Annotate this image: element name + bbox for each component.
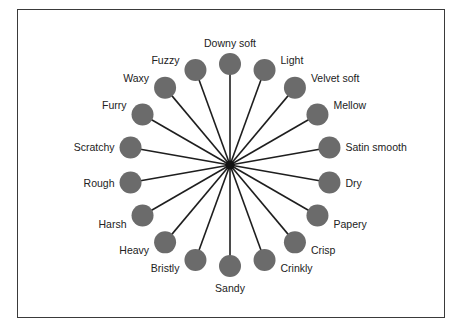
label-waxy: Waxy — [123, 72, 150, 84]
label-scratchy: Scratchy — [74, 141, 116, 153]
label-dry: Dry — [345, 177, 362, 189]
node-downy-soft — [219, 53, 241, 75]
spoke-crisp — [230, 165, 295, 242]
node-light — [254, 59, 276, 81]
spoke-fuzzy — [195, 70, 230, 165]
spoke-velvet-soft — [230, 88, 295, 165]
node-papery — [306, 205, 328, 227]
label-downy-soft: Downy soft — [204, 37, 256, 49]
node-satin-smooth — [318, 136, 340, 158]
node-waxy — [154, 77, 176, 99]
label-velvet-soft: Velvet soft — [311, 72, 360, 84]
node-velvet-soft — [284, 77, 306, 99]
node-crisp — [284, 231, 306, 253]
node-heavy — [154, 231, 176, 253]
spoke-waxy — [165, 88, 230, 165]
node-dry — [318, 172, 340, 194]
hub-center — [226, 161, 235, 170]
label-papery: Papery — [333, 218, 367, 230]
node-furry — [132, 104, 154, 126]
node-mellow — [306, 104, 328, 126]
node-harsh — [132, 205, 154, 227]
label-fuzzy: Fuzzy — [151, 54, 180, 66]
texture-wheel-diagram: Downy softLightVelvet softMellowSatin sm… — [0, 0, 456, 328]
node-fuzzy — [184, 59, 206, 81]
label-furry: Furry — [102, 99, 127, 111]
spoke-crinkly — [230, 165, 265, 260]
label-heavy: Heavy — [119, 244, 150, 256]
node-crinkly — [254, 249, 276, 271]
label-mellow: Mellow — [333, 99, 366, 111]
labels-group: Downy softLightVelvet softMellowSatin sm… — [74, 37, 407, 294]
node-bristly — [184, 249, 206, 271]
node-sandy — [219, 255, 241, 277]
label-rough: Rough — [84, 177, 115, 189]
label-bristly: Bristly — [151, 262, 180, 274]
spoke-light — [230, 70, 265, 165]
node-scratchy — [120, 136, 142, 158]
spoke-heavy — [165, 165, 230, 242]
label-sandy: Sandy — [215, 282, 246, 294]
label-harsh: Harsh — [99, 218, 127, 230]
label-light: Light — [281, 54, 304, 66]
spoke-bristly — [195, 165, 230, 260]
node-rough — [120, 172, 142, 194]
label-crinkly: Crinkly — [281, 262, 314, 274]
label-crisp: Crisp — [311, 244, 336, 256]
label-satin-smooth: Satin smooth — [345, 141, 406, 153]
